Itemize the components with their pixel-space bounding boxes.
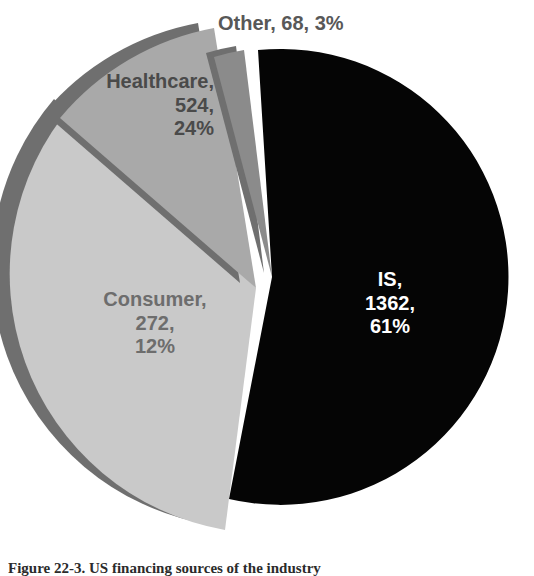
pie-chart-figure: Other, 68, 3% Healthcare, 524, 24% Consu… [0, 0, 534, 576]
figure-caption: Figure 22-3. US financing sources of the… [8, 560, 528, 576]
pie-slice-is-fill [229, 49, 508, 505]
pie-chart-canvas [0, 0, 534, 576]
pie-slice-is[interactable] [229, 49, 508, 505]
